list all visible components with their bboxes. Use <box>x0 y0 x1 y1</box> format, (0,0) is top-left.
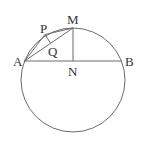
chord-ap <box>25 35 45 62</box>
label-n: N <box>68 64 78 79</box>
label-p: P <box>40 21 47 36</box>
label-a: A <box>13 54 23 69</box>
label-q: Q <box>48 44 58 59</box>
label-b: B <box>125 54 134 69</box>
label-m: M <box>67 12 79 27</box>
geometry-diagram: M P Q A N B <box>0 0 144 145</box>
